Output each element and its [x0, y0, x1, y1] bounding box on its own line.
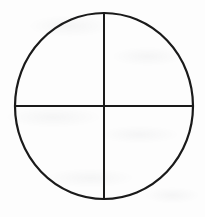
figure-container: Quartered circle A plain circle outline … [0, 0, 205, 217]
quartered-circle-figure: Quartered circle A plain circle outline … [0, 0, 205, 217]
